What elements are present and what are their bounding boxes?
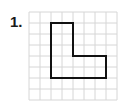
grid-diagram (0, 0, 128, 111)
l-shape-outline (51, 23, 106, 78)
